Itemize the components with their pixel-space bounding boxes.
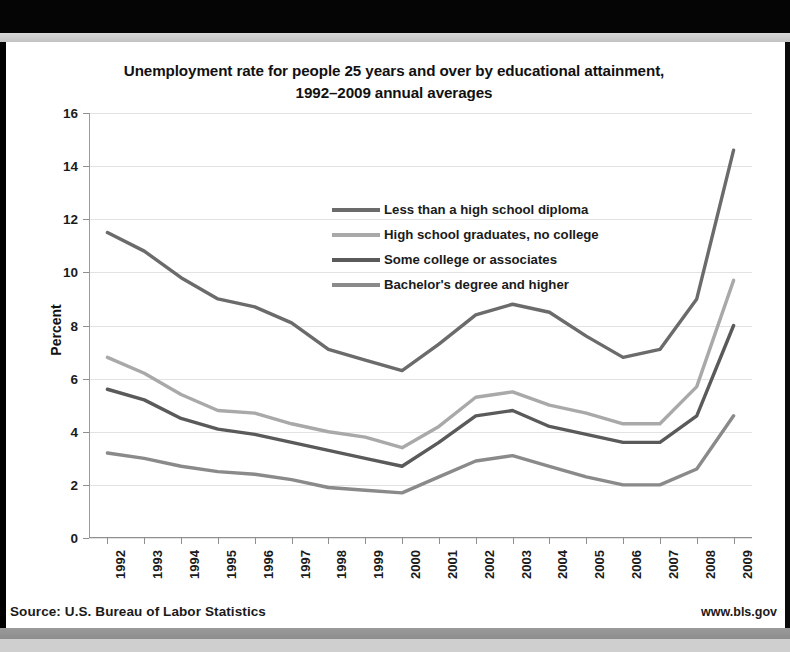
x-axis-tick-label: 2001 — [445, 550, 460, 579]
x-axis-tick-label: 2008 — [703, 550, 718, 579]
x-axis-tick-label: 2009 — [740, 550, 755, 579]
bottom-gray-band — [0, 628, 790, 639]
legend-item-label: Less than a high school diploma — [384, 202, 588, 217]
legend-item[interactable]: High school graduates, no college — [332, 222, 599, 247]
footer-url-text[interactable]: www.bls.gov — [701, 605, 777, 619]
y-axis-tick-label: 4 — [70, 424, 78, 439]
legend-item[interactable]: Some college or associates — [332, 247, 599, 272]
chart-title-line-1: Unemployment rate for people 25 years an… — [34, 60, 754, 82]
y-axis-tick-label: 14 — [63, 159, 78, 174]
x-axis-tick — [292, 538, 293, 544]
x-axis-tick-label: 1997 — [298, 550, 313, 579]
x-axis-tick-label: 2005 — [592, 550, 607, 579]
x-axis-tick-label: 2007 — [666, 550, 681, 579]
chart-legend: Less than a high school diplomaHigh scho… — [332, 197, 599, 297]
y-axis-tick-label: 16 — [63, 106, 78, 121]
x-axis-tick — [476, 538, 477, 544]
x-axis-tick-label: 2006 — [629, 550, 644, 579]
legend-line-swatch — [332, 258, 380, 262]
legend-item-label: High school graduates, no college — [384, 227, 599, 242]
x-axis-tick-label: 1993 — [150, 550, 165, 579]
x-axis-tick-label: 1992 — [113, 550, 128, 579]
y-axis-tick-label: 2 — [70, 477, 78, 492]
x-axis-tick — [623, 538, 624, 544]
x-axis-tick — [107, 538, 108, 544]
x-axis-tick — [328, 538, 329, 544]
y-axis-tick-label: 10 — [63, 265, 78, 280]
x-axis-tick — [586, 538, 587, 544]
legend-item-label: Bachelor's degree and higher — [384, 277, 569, 292]
x-axis-tick-label: 2004 — [555, 550, 570, 579]
y-axis-tick-label: 6 — [70, 371, 78, 386]
slide-root: Unemployment rate for people 25 years an… — [0, 0, 790, 652]
x-axis-tick — [660, 538, 661, 544]
bottom-light-band — [0, 639, 790, 652]
x-axis-tick — [181, 538, 182, 544]
footer-source-text: Source: U.S. Bureau of Labor Statistics — [10, 604, 266, 619]
x-axis-tick-label: 2003 — [519, 550, 534, 579]
slide-canvas: Unemployment rate for people 25 years an… — [6, 42, 785, 607]
series-lines — [89, 113, 752, 538]
x-axis-tick — [697, 538, 698, 544]
x-axis-tick — [549, 538, 550, 544]
legend-item[interactable]: Less than a high school diploma — [332, 197, 599, 222]
legend-line-swatch — [332, 208, 380, 212]
x-axis-tick-label: 1999 — [371, 550, 386, 579]
x-axis-tick-label: 1995 — [224, 550, 239, 579]
x-axis-tick — [513, 538, 514, 544]
y-axis-tick-label: 0 — [70, 531, 78, 546]
y-axis-tick — [83, 538, 89, 539]
y-axis-title: Percent — [48, 304, 64, 355]
top-gray-band — [0, 33, 790, 42]
x-axis-tick-label: 2002 — [482, 550, 497, 579]
legend-line-swatch — [332, 233, 380, 237]
gridline — [89, 538, 752, 539]
legend-item[interactable]: Bachelor's degree and higher — [332, 272, 599, 297]
x-axis-tick-label: 1998 — [334, 550, 349, 579]
series-line — [107, 326, 733, 467]
legend-item-label: Some college or associates — [384, 252, 557, 267]
x-axis-tick-label: 1994 — [187, 550, 202, 579]
x-axis-tick — [439, 538, 440, 544]
x-axis-tick — [255, 538, 256, 544]
y-axis-tick-label: 8 — [70, 318, 78, 333]
y-axis-tick-label: 12 — [63, 212, 78, 227]
x-axis-tick — [144, 538, 145, 544]
chart-title: Unemployment rate for people 25 years an… — [34, 60, 754, 104]
slide-footer: Source: U.S. Bureau of Labor Statistics … — [6, 600, 785, 628]
x-axis-tick-label: 1996 — [261, 550, 276, 579]
x-axis-tick — [402, 538, 403, 544]
x-axis-tick — [218, 538, 219, 544]
x-axis-tick — [365, 538, 366, 544]
x-axis-tick — [734, 538, 735, 544]
plot-area: 0246810121416 19921993199419951996199719… — [89, 113, 752, 538]
top-black-bar — [0, 0, 790, 33]
chart-title-line-2: 1992–2009 annual averages — [34, 82, 754, 104]
legend-line-swatch — [332, 283, 380, 287]
x-axis-tick-label: 2000 — [408, 550, 423, 579]
right-dark-edge — [785, 42, 790, 652]
